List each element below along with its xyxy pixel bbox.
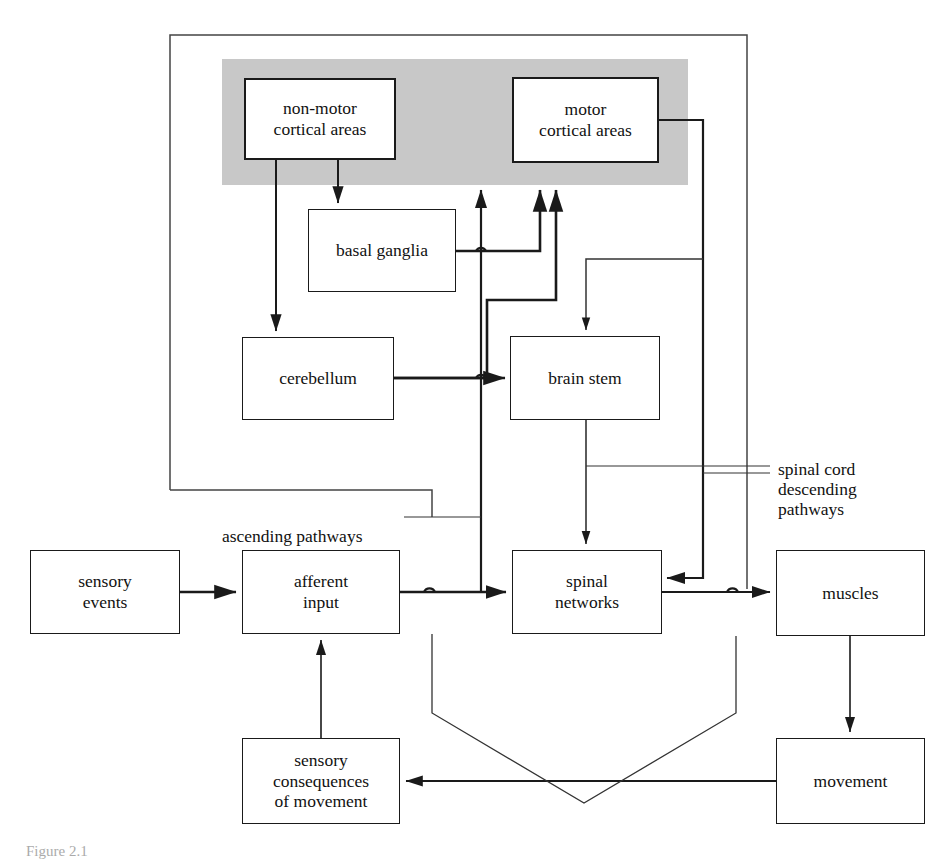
label-ascending-pathways: ascending pathways: [222, 507, 407, 547]
figure-caption: Figure 2.1: [26, 843, 88, 860]
node-motor-cortical-areas[interactable]: motorcortical areas: [512, 77, 659, 163]
node-cerebellum[interactable]: cerebellum: [242, 337, 394, 420]
node-brain-stem[interactable]: brain stem: [510, 336, 660, 420]
node-label: sensoryevents: [75, 571, 134, 612]
label-text: ascending pathways: [222, 526, 362, 546]
node-movement[interactable]: movement: [776, 738, 925, 824]
node-non-motor-cortical-areas[interactable]: non-motorcortical areas: [244, 78, 396, 160]
node-label: motorcortical areas: [536, 99, 635, 140]
node-muscles[interactable]: muscles: [776, 550, 925, 636]
label-text: spinal corddescendingpathways: [778, 459, 857, 519]
node-label: movement: [811, 771, 891, 792]
node-sensory-events[interactable]: sensoryevents: [30, 550, 180, 634]
node-afferent-input[interactable]: afferentinput: [242, 550, 400, 634]
node-spinal-networks[interactable]: spinalnetworks: [512, 550, 662, 634]
node-label: brain stem: [545, 368, 624, 389]
node-label: non-motorcortical areas: [271, 98, 370, 139]
node-label: basal ganglia: [333, 240, 431, 261]
node-label: sensoryconsequencesof movement: [270, 750, 372, 812]
node-basal-ganglia[interactable]: basal ganglia: [308, 209, 456, 292]
node-label: spinalnetworks: [552, 571, 622, 612]
caption-text: Figure 2.1: [26, 843, 88, 859]
label-spinal-cord-descending-pathways: spinal corddescendingpathways: [778, 440, 938, 520]
node-label: afferentinput: [291, 571, 351, 612]
node-label: cerebellum: [276, 368, 360, 389]
node-sensory-consequences-of-movement[interactable]: sensoryconsequencesof movement: [242, 738, 400, 824]
node-label: muscles: [819, 583, 881, 604]
